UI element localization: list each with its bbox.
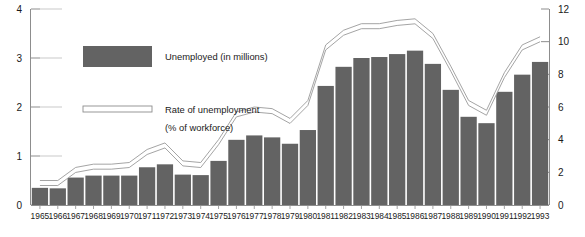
- bar-1978: [264, 137, 280, 205]
- bar-1972: [157, 164, 173, 205]
- bar-1980: [300, 130, 316, 205]
- x-tick-label-1992: 1992: [513, 211, 532, 221]
- x-tick-label-1979: 1979: [281, 211, 300, 221]
- x-tick-label-1972: 1972: [156, 211, 175, 221]
- bar-1976: [228, 140, 244, 205]
- x-tick-label-1971: 1971: [138, 211, 157, 221]
- right-tick-label: 10: [558, 36, 570, 47]
- bar-1983: [353, 58, 369, 205]
- bar-1988: [443, 90, 459, 205]
- x-tick-label-1981: 1981: [316, 211, 335, 221]
- x-tick-label-1989: 1989: [459, 211, 478, 221]
- chart-canvas: 01234 024681012 196519661967196819691970…: [0, 0, 585, 237]
- bar-1981: [318, 86, 334, 205]
- bar-1975: [210, 161, 226, 205]
- x-tick-label-1966: 1966: [48, 211, 67, 221]
- left-tick-label: 3: [16, 53, 22, 64]
- bar-1967: [68, 178, 84, 205]
- legend-swatch-rate: [83, 106, 152, 112]
- bar-1985: [389, 54, 405, 205]
- x-tick-label-1965: 1965: [31, 211, 50, 221]
- x-tick-label-1975: 1975: [209, 211, 228, 221]
- x-tick-label-1968: 1968: [84, 211, 103, 221]
- left-tick-label: 4: [16, 4, 22, 15]
- x-tick-label-1985: 1985: [388, 211, 407, 221]
- x-tick-label-1990: 1990: [477, 211, 496, 221]
- bar-1968: [85, 176, 101, 205]
- left-tick-label: 0: [16, 200, 22, 211]
- bar-1965: [32, 188, 48, 205]
- bar-1987: [425, 64, 441, 205]
- bar-1982: [335, 67, 351, 205]
- x-tick-label-1986: 1986: [406, 211, 425, 221]
- x-tick-label-1977: 1977: [245, 211, 264, 221]
- bar-1974: [193, 175, 209, 205]
- legend-label-rate-line2: (% of workforce): [165, 122, 233, 133]
- bar-1977: [246, 135, 262, 205]
- x-tick-label-1984: 1984: [370, 211, 389, 221]
- bar-1973: [175, 175, 191, 205]
- unemployment-chart: 01234 024681012 196519661967196819691970…: [0, 0, 585, 237]
- x-tick-label-1988: 1988: [441, 211, 460, 221]
- right-tick-label: 0: [558, 200, 564, 211]
- x-tick-label-1993: 1993: [531, 211, 550, 221]
- right-tick-label: 12: [558, 4, 570, 15]
- bar-1971: [139, 167, 155, 205]
- bar-1984: [371, 57, 387, 205]
- left-tick-label: 2: [16, 102, 22, 113]
- bar-1969: [103, 176, 119, 205]
- x-tick-label-1991: 1991: [495, 211, 514, 221]
- right-tick-label: 2: [558, 167, 564, 178]
- bar-1991: [496, 92, 512, 205]
- x-tick-label-1987: 1987: [424, 211, 443, 221]
- x-tick-label-1980: 1980: [299, 211, 318, 221]
- bar-1979: [282, 144, 298, 205]
- bar-1986: [407, 51, 423, 205]
- bar-1970: [121, 176, 137, 205]
- x-tick-label-1973: 1973: [174, 211, 193, 221]
- legend-label-unemployed: Unemployed (in millions): [165, 51, 268, 62]
- legend-swatch-unemployed: [83, 46, 152, 67]
- right-tick-label: 8: [558, 69, 564, 80]
- bar-1966: [50, 188, 66, 205]
- x-tick-label-1983: 1983: [352, 211, 371, 221]
- right-tick-label: 4: [558, 134, 564, 145]
- x-tick-label-1970: 1970: [120, 211, 139, 221]
- bar-1993: [532, 62, 548, 205]
- x-tick-label-1969: 1969: [102, 211, 121, 221]
- x-tick-label-1974: 1974: [191, 211, 210, 221]
- right-tick-label: 6: [558, 102, 564, 113]
- x-tick-label-1978: 1978: [263, 211, 282, 221]
- bar-1992: [514, 75, 530, 205]
- x-tick-label-1976: 1976: [227, 211, 246, 221]
- legend-label-rate: Rate of unemployment: [165, 104, 260, 115]
- x-tick-label-1967: 1967: [66, 211, 85, 221]
- bar-1989: [460, 117, 476, 205]
- x-axis-tick-labels: 1965196619671968196919701971197219731974…: [31, 211, 550, 221]
- bar-1990: [478, 123, 494, 205]
- x-tick-label-1982: 1982: [334, 211, 353, 221]
- left-tick-label: 1: [16, 151, 22, 162]
